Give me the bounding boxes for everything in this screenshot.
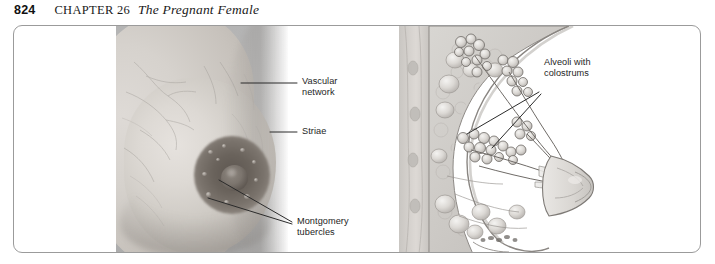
page-folio: 824 (14, 3, 35, 17)
label-alveoli-with-colostrums: Alveoli withcolostrums (544, 57, 591, 80)
label-line: network (302, 87, 335, 97)
nipple-highlight (226, 168, 237, 177)
label-montgomery-tubercles: Montgomerytubercles (297, 216, 349, 239)
chapter-title: The Pregnant Female (138, 2, 259, 18)
montgomery-tubercle (224, 200, 229, 204)
montgomery-tubercle (202, 172, 207, 176)
figure-frame: Vascularnetwork Striae Montgomerytubercl… (13, 25, 701, 253)
label-line: Striae (302, 126, 326, 136)
label-line: Alveoli with (544, 57, 591, 67)
chapter-label: CHAPTER 26 (54, 3, 130, 18)
montgomery-tubercle (208, 150, 213, 154)
running-head: 824 CHAPTER 26 The Pregnant Female (14, 2, 259, 20)
label-line: Montgomery (297, 216, 349, 226)
montgomery-tubercle (206, 192, 211, 197)
chest-wall-layer (399, 26, 433, 253)
montgomery-tubercle (240, 148, 245, 152)
montgomery-tubercle (216, 158, 220, 161)
nipple (543, 156, 594, 216)
montgomery-tubercle (254, 178, 258, 182)
label-striae: Striae (302, 126, 326, 137)
montgomery-tubercle (222, 144, 226, 148)
label-vascular-network: Vascularnetwork (302, 76, 337, 99)
montgomery-tubercle (244, 194, 250, 199)
label-line: colostrums (544, 68, 589, 78)
label-line: Vascular (302, 76, 337, 86)
label-line: tubercles (297, 227, 335, 237)
lower-gland-stipple (481, 235, 518, 242)
montgomery-tubercle (252, 160, 256, 164)
breast-photograph (116, 26, 288, 253)
